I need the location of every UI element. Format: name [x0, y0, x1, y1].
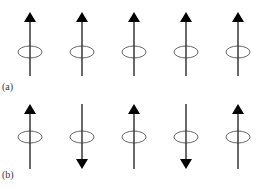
panel-a-label: (a): [2, 81, 13, 92]
arrowhead-up-icon: [180, 12, 192, 22]
arrowhead-up-icon: [76, 12, 88, 22]
spin-down-arrow: [70, 104, 94, 169]
panel-a-parallel-spins: [18, 12, 250, 76]
spin-up-arrow: [226, 12, 250, 76]
spin-up-arrow: [70, 12, 94, 76]
arrowhead-down-icon: [180, 159, 192, 169]
spin-down-arrow: [174, 104, 198, 169]
arrowhead-up-icon: [232, 104, 244, 114]
panel-b-antiparallel-spins: [18, 104, 250, 169]
spin-diagram: [0, 0, 264, 188]
spin-up-arrow: [18, 104, 42, 169]
arrowhead-up-icon: [24, 104, 36, 114]
spin-up-arrow: [226, 104, 250, 169]
arrowhead-up-icon: [128, 12, 140, 22]
arrowhead-up-icon: [128, 104, 140, 114]
arrowhead-up-icon: [24, 12, 36, 22]
spin-up-arrow: [18, 12, 42, 76]
panel-b-label: (b): [2, 169, 14, 180]
spin-up-arrow: [122, 104, 146, 169]
spin-up-arrow: [122, 12, 146, 76]
arrowhead-down-icon: [76, 159, 88, 169]
arrowhead-up-icon: [232, 12, 244, 22]
spin-up-arrow: [174, 12, 198, 76]
